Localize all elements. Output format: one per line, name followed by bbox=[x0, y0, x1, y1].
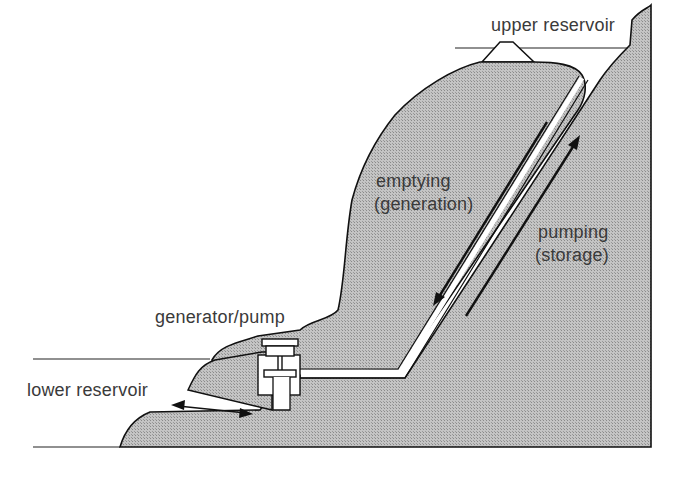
pumping-label: pumping bbox=[538, 221, 608, 243]
upper-reservoir-label: upper reservoir bbox=[491, 14, 615, 36]
generator-unit bbox=[262, 339, 298, 346]
storage-label: (storage) bbox=[535, 244, 609, 266]
emptying-label: emptying bbox=[376, 170, 451, 192]
arrowhead-left-icon bbox=[171, 400, 185, 410]
upper-reservoir-dam bbox=[482, 42, 534, 62]
pump-turbine-unit bbox=[264, 370, 296, 377]
generator-pump-label: generator/pump bbox=[155, 306, 285, 328]
tailrace-pipe bbox=[273, 377, 290, 410]
lower-reservoir-label: lower reservoir bbox=[27, 379, 148, 401]
generation-label: (generation) bbox=[374, 193, 473, 215]
generator-body bbox=[266, 346, 294, 356]
